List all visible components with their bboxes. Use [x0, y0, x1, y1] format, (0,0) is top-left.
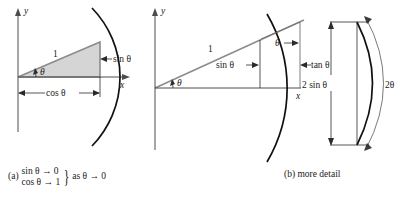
y-axis-arrowhead [152, 8, 158, 16]
caption-a-brace: } [64, 169, 70, 185]
ray-to-tangent-connector [261, 22, 300, 39]
arc-label: 2θ [385, 80, 395, 90]
arc-2theta-arrowhead-bottom [364, 143, 372, 151]
panel-c-drawing: 2 sin θ 2θ [300, 0, 411, 197]
hypotenuse-label: 1 [208, 44, 213, 54]
panel-b-drawing: y x θ 1 θ sin θ [136, 0, 311, 197]
caption-a-trailer: as θ → 0 [72, 172, 106, 182]
sine-label: sin θ [113, 54, 131, 64]
y-axis-label: y [23, 6, 29, 16]
caption-a: (a) sin θ → 0 cos θ → 1 } as θ → 0 [8, 166, 106, 187]
arc-2theta-arrowhead-top [364, 16, 372, 24]
hypotenuse-label: 1 [53, 49, 58, 59]
panel-c: 2 sin θ 2θ (c) 2 sin θ < 2θ [300, 0, 411, 197]
angle-top-arrowhead [292, 40, 299, 46]
y-axis-arrowhead [15, 8, 21, 16]
angle-label-top: θ [275, 38, 280, 48]
arc-thin-2theta [366, 18, 384, 149]
sine-label: sin θ [216, 60, 234, 70]
angle-label: θ [40, 67, 45, 77]
caption-a-line2: cos θ → 1 [22, 177, 61, 188]
sine-leader-arrowhead [252, 62, 259, 68]
cosine-arrowhead-right [93, 90, 100, 96]
cosine-label: cos θ [46, 88, 66, 98]
cosine-arrowhead-left [18, 90, 25, 96]
panel-b: y x θ 1 θ sin θ [136, 0, 311, 197]
y-axis-label: y [160, 6, 166, 16]
sine-leader-arrowhead [100, 56, 107, 62]
arc-bold-2sin [357, 22, 373, 145]
angle-label-origin: θ [177, 78, 182, 88]
caption-b-tag: (b) [284, 169, 295, 179]
caption-a-line1: sin θ → 0 [22, 166, 61, 177]
caption-a-stack: sin θ → 0 cos θ → 1 [22, 166, 61, 187]
figure-container: y x θ 1 sin θ cos θ (a) sin [0, 0, 411, 197]
chord-label: 2 sin θ [302, 80, 328, 90]
panel-a: y x θ 1 sin θ cos θ (a) sin [0, 0, 140, 197]
caption-a-tag: (a) [8, 172, 19, 182]
